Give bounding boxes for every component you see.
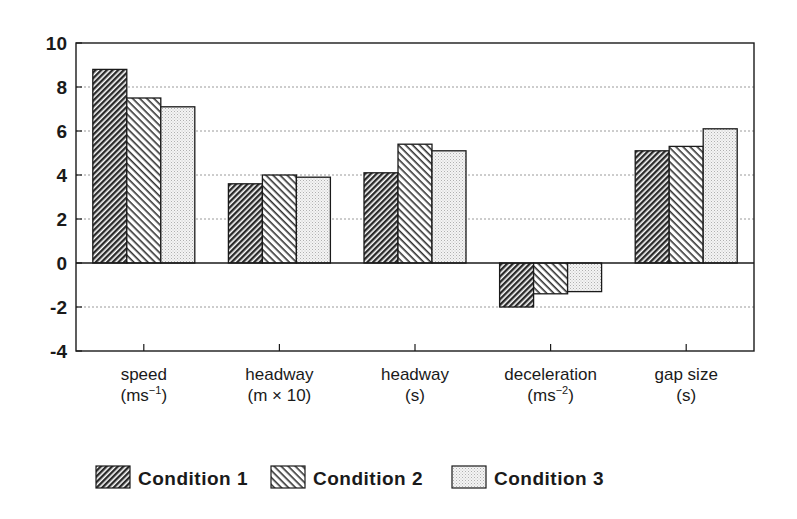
bar-condition-3-cat-2 bbox=[432, 151, 466, 263]
bar-condition-1-cat-1 bbox=[228, 184, 262, 263]
x-category-label: headway bbox=[245, 365, 314, 384]
y-tick-label: 4 bbox=[56, 165, 67, 186]
bar-condition-2-cat-3 bbox=[534, 263, 568, 294]
x-category-unit: (s) bbox=[405, 386, 425, 405]
legend-item-3: Condition 3 bbox=[452, 466, 604, 489]
bar-condition-2-cat-0 bbox=[127, 98, 161, 263]
y-tick-label: -4 bbox=[50, 341, 67, 362]
x-category-unit: (m × 10) bbox=[248, 386, 312, 405]
bar-chart: -4-20246810 speed(ms−1)headway(m × 10)he… bbox=[0, 0, 797, 519]
bars bbox=[93, 69, 737, 307]
bar-condition-2-cat-1 bbox=[262, 175, 296, 263]
bar-condition-2-cat-2 bbox=[398, 144, 432, 263]
bar-condition-1-cat-2 bbox=[364, 173, 398, 263]
legend-item-1: Condition 1 bbox=[96, 466, 248, 489]
bar-condition-3-cat-1 bbox=[296, 177, 330, 263]
x-category-unit: (s) bbox=[676, 386, 696, 405]
legend: Condition 1Condition 2Condition 3 bbox=[96, 466, 604, 489]
y-tick-label: 0 bbox=[56, 253, 67, 274]
x-category-unit: (ms−1) bbox=[121, 384, 168, 405]
legend-swatch bbox=[96, 466, 130, 488]
y-tick-label: -2 bbox=[50, 297, 67, 318]
legend-label: Condition 2 bbox=[313, 468, 423, 489]
legend-swatch bbox=[271, 466, 305, 488]
bar-condition-3-cat-4 bbox=[703, 129, 737, 263]
x-category-label: gap size bbox=[655, 365, 718, 384]
y-tick-labels: -4-20246810 bbox=[46, 33, 68, 362]
x-category-label: deceleration bbox=[504, 365, 597, 384]
legend-swatch bbox=[452, 466, 486, 488]
y-tick-label: 10 bbox=[46, 33, 67, 54]
bar-condition-3-cat-3 bbox=[568, 263, 602, 292]
bar-condition-3-cat-0 bbox=[161, 107, 195, 263]
x-category-labels: speed(ms−1)headway(m × 10)headway(s)dece… bbox=[121, 365, 718, 405]
bar-condition-1-cat-0 bbox=[93, 69, 127, 263]
bar-condition-1-cat-4 bbox=[635, 151, 669, 263]
legend-item-2: Condition 2 bbox=[271, 466, 423, 489]
legend-label: Condition 3 bbox=[494, 468, 604, 489]
bar-condition-1-cat-3 bbox=[500, 263, 534, 307]
x-category-unit: (ms−2) bbox=[527, 384, 574, 405]
legend-label: Condition 1 bbox=[138, 468, 248, 489]
bar-condition-2-cat-4 bbox=[669, 146, 703, 263]
x-category-label: speed bbox=[121, 365, 167, 384]
y-tick-label: 8 bbox=[56, 77, 67, 98]
y-tick-label: 2 bbox=[56, 209, 67, 230]
y-tick-label: 6 bbox=[56, 121, 67, 142]
x-category-label: headway bbox=[381, 365, 450, 384]
